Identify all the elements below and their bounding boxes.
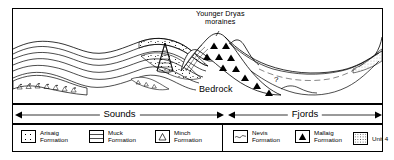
arisaig-pattern-swatch-icon	[21, 130, 36, 143]
legend-label-muck: Muck Formation	[108, 129, 136, 143]
extent-label-fjords: Fjords	[288, 108, 322, 119]
legend-label-mallaig: Mallaig Formation	[314, 129, 342, 143]
legend-group-fjords: Nevis Formation Mallaig Formation Unit 4	[222, 125, 382, 151]
legend-panel: Arisaig Formation Muck Formation	[12, 124, 383, 152]
legend-item-minch: Minch Formation	[155, 129, 202, 143]
muck-pattern-swatch-icon	[89, 130, 104, 143]
legend-item-arisaig: Arisaig Formation	[21, 129, 68, 143]
legend-label-minch-line2: Formation	[174, 136, 202, 143]
legend-label-nevis: Nevis Formation	[252, 129, 280, 143]
extent-segment-sounds: Sounds	[13, 105, 226, 125]
legend-group-sounds: Arisaig Formation Muck Formation	[13, 125, 222, 151]
minch-pattern-swatch-icon	[155, 130, 170, 143]
bedrock-label: Bedrock	[199, 85, 233, 93]
unit4-pattern-swatch-icon	[353, 132, 368, 145]
legend-label-mallaig-line1: Mallaig	[314, 129, 334, 136]
legend-label-muck-line1: Muck	[108, 129, 123, 136]
legend-label-nevis-line2: Formation	[252, 136, 280, 143]
legend-label-nevis-line1: Nevis	[252, 129, 267, 136]
legend-label-minch-line1: Minch	[174, 129, 191, 136]
legend-label-arisaig-line1: Arisaig	[40, 129, 59, 136]
legend-label-minch: Minch Formation	[174, 129, 202, 143]
legend-item-unit4: Unit 4	[353, 132, 388, 145]
legend-label-unit4: Unit 4	[372, 135, 388, 142]
legend-item-muck: Muck Formation	[89, 129, 136, 143]
extent-segment-fjords: Fjords	[226, 105, 384, 125]
younger-dryas-moraines-label: Younger Dryas moraines	[196, 10, 245, 26]
uncertainty-question-mark: ?	[274, 76, 279, 84]
geological-cross-section-figure: Younger Dryas moraines Bedrock ? Sounds …	[0, 0, 394, 160]
legend-label-arisaig: Arisaig Formation	[40, 129, 68, 143]
legend-label-muck-line2: Formation	[108, 136, 136, 143]
nevis-pattern-swatch-icon	[233, 130, 248, 143]
legend-item-mallaig: Mallaig Formation	[295, 129, 342, 143]
extent-scale-panel: Sounds Fjords	[12, 104, 383, 124]
legend-label-arisaig-line2: Formation	[40, 136, 68, 143]
extent-label-sounds: Sounds	[99, 108, 139, 119]
younger-dryas-line-2: moraines	[196, 18, 245, 26]
legend-item-nevis: Nevis Formation	[233, 129, 280, 143]
mallaig-pattern-swatch-icon	[295, 130, 310, 143]
legend-label-mallaig-line2: Formation	[314, 136, 342, 143]
